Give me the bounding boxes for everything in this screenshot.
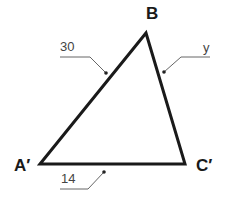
leader-side-ab — [60, 57, 108, 75]
leader-side-bc — [162, 57, 210, 74]
vertex-label-c: C′ — [196, 156, 212, 175]
vertex-label-b: B — [146, 4, 158, 23]
side-ac-length: 14 — [61, 171, 75, 186]
side-bc-length: y — [203, 40, 210, 55]
side-ab-length: 30 — [60, 39, 74, 54]
triangle-diagram: 30 y 14 B A′ C′ — [0, 0, 225, 206]
vertex-label-a: A′ — [14, 156, 30, 175]
